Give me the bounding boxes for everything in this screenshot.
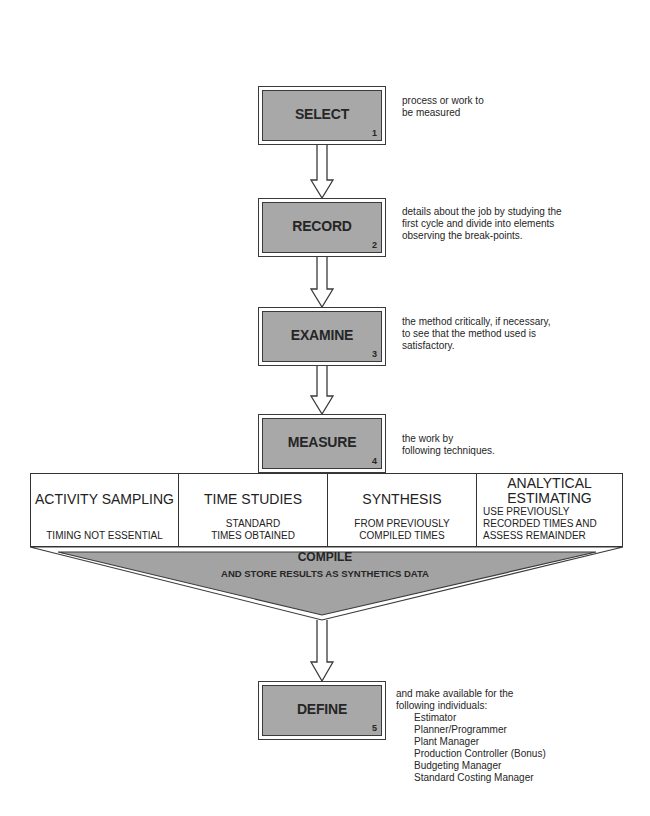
individual-item: Plant Manager [396,736,546,748]
technique-subtitle: STANDARD TIMES OBTAINED [179,518,327,542]
individual-item: Standard Costing Manager [396,772,546,784]
compile-subtitle: AND STORE RESULTS AS SYNTHETICS DATA [0,568,650,579]
individual-item: Planner/Programmer [396,724,546,736]
work-measurement-flowchart: SELECT 1 process or work to be measured … [0,0,650,816]
technique-title: ACTIVITY SAMPLING [31,491,178,507]
step-number: 3 [372,349,377,359]
step-record-description: details about the job by studying the fi… [402,206,562,242]
technique-analytical-estimating: ANALYTICAL ESTIMATING USE PREVIOUSLY REC… [477,474,622,546]
technique-synthesis: SYNTHESIS FROM PREVIOUSLY COMPILED TIMES [328,474,477,546]
individual-item: Budgeting Manager [396,760,546,772]
step-measure-description: the work by following techniques. [402,433,495,457]
step-label: SELECT [263,106,381,122]
technique-time-studies: TIME STUDIES STANDARD TIMES OBTAINED [179,474,328,546]
individual-item: Estimator [396,712,546,724]
compile-title: COMPILE [0,550,650,564]
step-measure: MEASURE 4 [258,414,386,473]
technique-activity-sampling: ACTIVITY SAMPLING TIMING NOT ESSENTIAL [31,474,179,546]
technique-subtitle: USE PREVIOUSLY RECORDED TIMES AND ASSESS… [483,506,622,542]
step-examine: EXAMINE 3 [258,307,386,366]
arrow-record-to-examine [311,251,333,307]
technique-subtitle: FROM PREVIOUSLY COMPILED TIMES [328,518,476,542]
arrow-compile-to-define [311,620,333,681]
technique-subtitle: TIMING NOT ESSENTIAL [31,530,178,542]
step-examine-description: the method critically, if necessary, to … [402,316,551,352]
step-label: DEFINE [263,701,381,717]
arrow-select-to-record [311,145,333,198]
step-number: 5 [372,723,377,733]
step-number: 4 [372,456,377,466]
technique-title: SYNTHESIS [328,491,476,507]
step-define: DEFINE 5 [258,681,386,740]
step-label: EXAMINE [263,327,381,343]
technique-title: ANALYTICAL ESTIMATING [477,476,622,506]
techniques-table: ACTIVITY SAMPLING TIMING NOT ESSENTIAL T… [30,473,623,547]
step-number: 2 [372,240,377,250]
technique-title: TIME STUDIES [179,491,327,507]
arrow-examine-to-measure [311,360,333,414]
step-label: MEASURE [263,434,381,450]
step-select: SELECT 1 [258,86,386,145]
individual-item: Production Controller (Bonus) [396,748,546,760]
step-define-description: and make available for the following ind… [396,688,546,784]
step-select-description: process or work to be measured [402,95,484,119]
step-record: RECORD 2 [258,198,386,257]
step-label: RECORD [263,218,381,234]
step-number: 1 [372,128,377,138]
